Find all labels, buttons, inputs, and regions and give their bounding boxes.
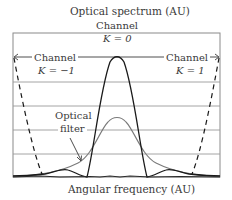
- filter-pointer-arrow: [70, 138, 82, 161]
- optical-filter-label-line1: Optical: [53, 110, 94, 121]
- channel-kp1-k: K = 1: [174, 65, 207, 76]
- channel-k0-k: K = 0: [101, 33, 134, 44]
- optical-filter-curve: [13, 118, 220, 177]
- channel-km1-k: K = −1: [36, 65, 77, 76]
- chart-title: Optical spectrum (AU): [68, 6, 192, 17]
- optical-filter-label-line2: filter: [58, 123, 87, 134]
- channel-km1-label: Channel: [32, 52, 78, 63]
- x-axis-label: Angular frequency (AU): [66, 184, 197, 195]
- channel-kp1-label: Channel: [164, 52, 210, 63]
- channel-k0-label: Channel: [94, 20, 140, 31]
